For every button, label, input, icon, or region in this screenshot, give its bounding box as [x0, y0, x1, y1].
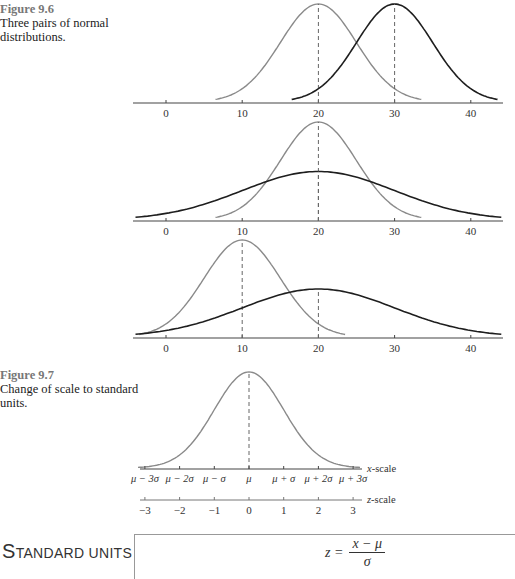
z-scale-tick-label: 1 [281, 504, 287, 516]
tick-label: 0 [163, 107, 169, 119]
tick-label: 30 [389, 107, 401, 119]
formula-numerator: x − μ [349, 536, 385, 553]
z-scale-label: z-scale [366, 494, 396, 505]
panel-2: 010203040 [133, 122, 503, 237]
z-scale-tick-label: 2 [316, 504, 322, 516]
tick-label: 10 [237, 225, 249, 237]
figures-canvas: 010203040010203040010203040μ − 3σ−3μ − 2… [0, 0, 515, 530]
x-scale-tick-label: μ − 3σ [130, 473, 160, 484]
tick-label: 0 [163, 225, 169, 237]
x-scale-label: x-scale [366, 463, 396, 474]
panel-3: 010203040 [133, 240, 503, 354]
x-scale-tick-label: μ − σ [202, 473, 227, 484]
tick-label: 30 [389, 225, 401, 237]
formula-denominator: σ [364, 553, 371, 569]
tick-label: 20 [313, 225, 325, 237]
z-scale-tick-label: 3 [350, 504, 356, 516]
x-scale-tick-label: μ + σ [271, 473, 296, 484]
figure-9-7-plot: μ − 3σ−3μ − 2σ−2μ − σ−1μ0μ + σ1μ + 2σ2μ … [130, 372, 397, 516]
section-title-rest: tandard units [16, 545, 132, 561]
z-scale-tick-label: −3 [139, 504, 151, 516]
tick-label: 10 [237, 342, 249, 354]
standard-units-formula: z = x − μ σ [325, 536, 385, 569]
z-scale-tick-label: 0 [246, 504, 252, 516]
x-scale-tick-label: μ [245, 473, 251, 484]
tick-label: 40 [465, 342, 477, 354]
tick-label: 0 [163, 342, 169, 354]
formula-fraction: x − μ σ [349, 536, 385, 569]
z-scale-tick-label: −1 [208, 504, 220, 516]
x-scale-tick-label: μ + 2σ [303, 473, 333, 484]
z-scale-tick-label: −2 [174, 504, 186, 516]
tick-label: 20 [313, 107, 325, 119]
panel-1: 010203040 [133, 4, 503, 119]
x-scale-tick-label: μ + 3σ [338, 473, 368, 484]
tick-label: 40 [465, 225, 477, 237]
tick-label: 40 [465, 107, 477, 119]
x-scale-tick-label: μ − 2σ [165, 473, 195, 484]
formula-lhs: z = [325, 545, 343, 561]
section-title-initial: S [2, 540, 16, 562]
tick-label: 20 [313, 342, 325, 354]
tick-label: 30 [389, 342, 401, 354]
tick-label: 10 [237, 107, 249, 119]
section-title-standard-units: Standard units [2, 540, 132, 563]
